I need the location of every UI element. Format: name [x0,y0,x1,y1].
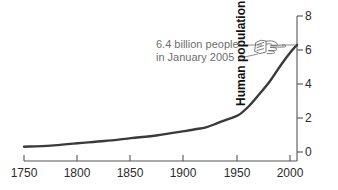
pointing-hand-icon [255,40,286,54]
population-growth-chart: 1750 1800 1850 1900 1950 2000 0 2 4 6 8 … [0,0,338,190]
x-tick-label-1750: 1750 [11,167,38,179]
y-axis-title: Human population size (in billions) [230,0,252,106]
chart-plot-area [0,0,338,190]
x-tick-label-2000: 2000 [277,167,304,179]
y-tick-label-0: 0 [305,146,312,158]
x-tick-label-1950: 1950 [224,167,251,179]
y-tick-label-6: 6 [305,44,312,56]
y-tick-label-8: 8 [305,10,312,22]
x-tick-label-1850: 1850 [117,167,144,179]
x-axis-ticks [24,155,290,161]
x-tick-label-1800: 1800 [64,167,91,179]
y-tick-label-4: 4 [305,78,312,90]
y-axis-ticks [297,16,303,152]
x-tick-label-1900: 1900 [170,167,197,179]
y-tick-label-2: 2 [305,112,312,124]
